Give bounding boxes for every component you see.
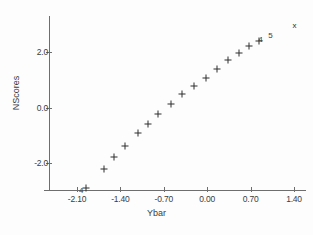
y-tick-label: 2.0 xyxy=(37,47,48,57)
point-annotation-label: 4 xyxy=(258,36,262,44)
x-tick-mark xyxy=(164,187,165,192)
x-tick-mark xyxy=(294,187,295,192)
data-point-plus-marker xyxy=(134,130,141,137)
x-tick-label: 0.70 xyxy=(243,194,259,204)
point-annotation-label: 4 xyxy=(79,187,83,195)
x-tick-label: -0.70 xyxy=(155,194,173,204)
data-point-plus-marker xyxy=(246,42,253,49)
normal-probability-plot: -2.10-1.40-0.700.000.701.40 2.00.0-2.0 x… xyxy=(0,0,313,235)
x-tick-label: 0.00 xyxy=(199,194,215,204)
x-tick-mark xyxy=(120,187,121,192)
x-tick-label: -2.10 xyxy=(68,194,86,204)
data-point-plus-marker xyxy=(154,111,161,118)
data-point-plus-marker xyxy=(214,65,221,72)
x-axis-title: Ybar xyxy=(0,208,313,218)
x-tick-mark xyxy=(251,187,252,192)
data-point-plus-marker xyxy=(121,142,128,149)
data-point-plus-marker xyxy=(111,154,118,161)
x-tick-mark xyxy=(77,187,78,192)
y-tick-label: -2.0 xyxy=(34,158,48,168)
y-axis-title: NScores xyxy=(11,63,21,123)
x-tick-label: -1.40 xyxy=(111,194,129,204)
data-point-plus-marker xyxy=(145,120,152,127)
data-point-plus-marker xyxy=(190,83,197,90)
point-annotation-label: 5 xyxy=(268,32,272,40)
x-tick-label: 1.40 xyxy=(286,194,302,204)
data-point-plus-marker xyxy=(179,91,186,98)
data-point-plus-marker xyxy=(101,166,108,173)
y-tick-label: 0.0 xyxy=(37,103,48,113)
data-point-plus-marker xyxy=(224,57,231,64)
data-point-x-marker: x xyxy=(293,22,297,30)
data-point-plus-marker xyxy=(168,100,175,107)
data-point-plus-marker xyxy=(202,74,209,81)
data-point-plus-marker xyxy=(236,49,243,56)
x-tick-mark xyxy=(207,187,208,192)
